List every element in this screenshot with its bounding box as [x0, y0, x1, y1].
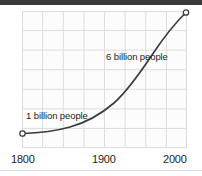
- chart-figure: 6 billion people 1 billion people 1800 1…: [0, 0, 202, 176]
- annotation-6-billion: 6 billion people: [106, 52, 168, 62]
- xtick-label-1800: 1800: [11, 154, 35, 165]
- plot-area: [22, 11, 187, 148]
- top-banner-bar: [0, 0, 202, 5]
- annotation-1-billion: 1 billion people: [26, 111, 88, 121]
- end-marker-circle: [183, 10, 188, 15]
- population-curve: [22, 11, 187, 148]
- xtick-label-2000: 2000: [163, 154, 187, 165]
- xtick-label-1900: 1900: [92, 154, 116, 165]
- bottom-divider: [0, 170, 202, 171]
- start-marker-circle: [20, 131, 25, 136]
